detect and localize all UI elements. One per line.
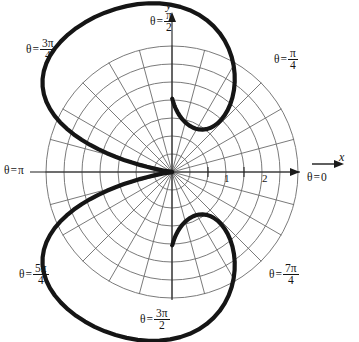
- equals-symbol: =: [156, 15, 165, 27]
- angle-label-3pi-over-2: θ=3π2: [140, 308, 170, 332]
- angle-label-pi: θ=π: [4, 165, 24, 177]
- fraction-denominator: 4: [283, 275, 299, 287]
- equals-symbol: =: [25, 268, 34, 280]
- spoke-255: [139, 172, 172, 294]
- x-axis-arrowhead: [290, 168, 300, 176]
- equals-symbol: =: [32, 43, 41, 55]
- fraction: 3π4: [40, 38, 56, 62]
- theta-symbol: θ: [19, 268, 25, 280]
- spoke-45: [172, 83, 261, 172]
- spoke-240: [109, 172, 172, 281]
- theta-symbol: θ: [269, 268, 275, 280]
- fraction-denominator: 2: [164, 22, 174, 34]
- angle-value: 0: [321, 171, 327, 183]
- angle-label-zero: θ=0: [307, 172, 327, 184]
- theta-symbol: θ: [26, 43, 32, 55]
- angle-label-pi-over-4: θ=π4: [274, 48, 298, 72]
- theta-symbol: θ: [4, 164, 10, 176]
- fraction-denominator: 4: [33, 275, 49, 287]
- angle-label-7pi-over-4: θ=7π4: [269, 263, 299, 287]
- fraction: 7π4: [283, 263, 299, 287]
- theta-symbol: θ: [274, 53, 280, 65]
- fraction-denominator: 4: [288, 60, 298, 72]
- angle-label-5pi-over-4: θ=5π4: [19, 263, 49, 287]
- equals-symbol: =: [313, 171, 322, 183]
- fraction-denominator: 2: [154, 320, 170, 332]
- fraction-denominator: 4: [40, 50, 56, 62]
- angle-value: π: [18, 164, 24, 176]
- fraction: 5π4: [33, 263, 49, 287]
- angle-label-pi-over-2: θ=π2: [150, 10, 174, 34]
- theta-symbol: θ: [150, 15, 156, 27]
- spoke-135: [83, 83, 172, 172]
- fraction: π4: [288, 48, 298, 72]
- radial-tick-label-1: 1: [224, 172, 230, 184]
- fraction: 3π2: [154, 308, 170, 332]
- equals-symbol: =: [280, 53, 289, 65]
- spoke-30: [172, 109, 281, 172]
- polar-plot-figure: y x 1 2 θ=π2 θ=3π4 θ=π4 θ=π θ=0 θ=5π4 θ=…: [0, 0, 359, 342]
- equals-symbol: =: [10, 164, 19, 176]
- fraction: π2: [164, 10, 174, 34]
- theta-symbol: θ: [307, 171, 313, 183]
- theta-symbol: θ: [140, 313, 146, 325]
- equals-symbol: =: [275, 268, 284, 280]
- equals-symbol: =: [146, 313, 155, 325]
- spoke-345: [172, 172, 294, 205]
- radial-tick-label-2: 2: [262, 172, 268, 184]
- spoke-225: [83, 172, 172, 261]
- x-axis-label: x: [339, 150, 344, 165]
- spoke-15: [172, 139, 294, 172]
- spoke-105: [139, 50, 172, 172]
- angle-label-3pi-over-4: θ=3π4: [26, 38, 56, 62]
- cardioid-curve: [43, 3, 235, 172]
- spoke-315: [172, 172, 261, 261]
- cardioid-curve-lower: [43, 172, 235, 341]
- spoke-120: [109, 63, 172, 172]
